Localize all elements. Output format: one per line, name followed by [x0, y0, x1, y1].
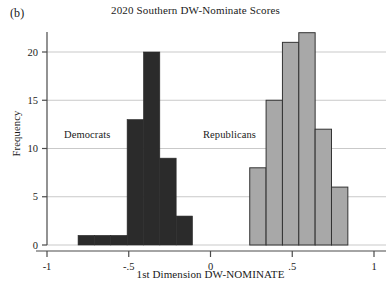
x-tick-label: -1 [43, 261, 52, 272]
histogram-bar [160, 158, 176, 245]
histogram-bar [111, 235, 127, 245]
histogram-bar [299, 33, 315, 245]
annotation-democrats: Democrats [64, 129, 110, 140]
y-tick-label: 5 [33, 191, 38, 202]
x-tick-label: -.5 [123, 261, 134, 272]
histogram-bar [331, 187, 347, 245]
plot-area: 05101520-1-.50.51 [0, 0, 391, 289]
x-tick-label: 0 [208, 261, 213, 272]
y-tick-label: 10 [28, 143, 39, 154]
histogram-bar [282, 42, 298, 245]
histogram-bar [266, 100, 282, 245]
y-tick-label: 0 [33, 240, 38, 251]
y-tick-label: 20 [28, 47, 39, 58]
histogram-bar [127, 120, 143, 245]
x-tick-label: .5 [288, 261, 296, 272]
y-tick-label: 15 [28, 95, 39, 106]
x-tick-label: 1 [371, 261, 376, 272]
histogram-bar [250, 168, 266, 245]
histogram-bar [315, 129, 331, 245]
histogram-bar [176, 216, 192, 245]
annotation-republicans: Republicans [203, 129, 256, 140]
histogram-bar [94, 235, 110, 245]
histogram-figure: (b) 2020 Southern DW-Nominate Scores Fre… [0, 0, 391, 289]
histogram-bar [78, 235, 94, 245]
histogram-bar [143, 52, 159, 245]
